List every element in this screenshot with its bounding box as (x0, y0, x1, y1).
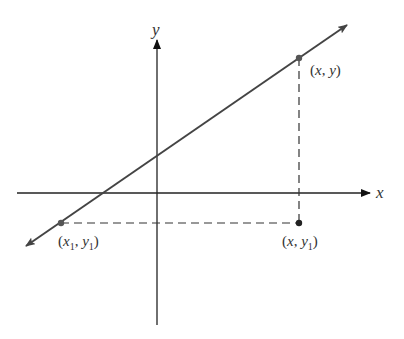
label-point-x-y: (x, y) (310, 62, 341, 79)
x-axis-label: x (375, 183, 384, 202)
coordinate-diagram: y x (x, y) (x1, y1) (x, y1) (0, 0, 404, 339)
point-x-y1 (296, 220, 302, 226)
label-point-x1-y1: (x1, y1) (58, 233, 99, 252)
point-x1-y1 (58, 220, 64, 226)
y-axis-label: y (150, 20, 160, 39)
point-x-y (296, 55, 302, 61)
sloped-line-lower (26, 58, 299, 246)
label-point-x-y1: (x, y1) (282, 233, 318, 252)
sloped-line (299, 25, 347, 58)
